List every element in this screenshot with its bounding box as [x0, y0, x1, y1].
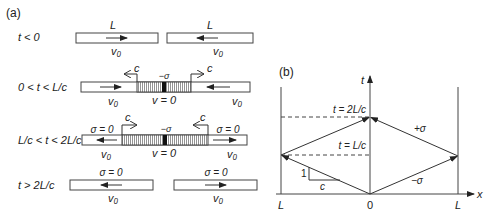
length-label: L: [207, 19, 213, 31]
stress-label: σ = 0: [100, 167, 123, 178]
row-compression-phase: 0 < t < L/c c c −σ v₀ v = 0 v₀: [18, 62, 250, 107]
wave-speed-label: c: [125, 111, 131, 123]
velocity-label: v₀: [213, 192, 224, 204]
stress-label: σ = 0: [91, 124, 114, 135]
wavefront-left-arrow-icon: [193, 125, 208, 135]
x-tick-origin: 0: [367, 199, 373, 211]
wave-speed-label: c: [200, 111, 206, 123]
velocity-label: v₀: [101, 148, 112, 160]
velocity-label: v₀: [213, 45, 224, 57]
panel-a: (a) t < 0 L L v₀ v₀ 0 < t < L/c c c −σ: [6, 6, 257, 204]
row-unloading-phase: L/c < t < 2L/c c c σ = 0 −σ σ = 0 v₀ v =…: [18, 111, 247, 160]
t-2Lc-label: t = 2L/c: [333, 104, 366, 115]
length-label: L: [110, 19, 116, 31]
contact-interface: [163, 135, 167, 145]
row-condition: t < 0: [18, 31, 41, 43]
wave-speed-label: c: [207, 62, 213, 74]
x-axis-label: x: [476, 188, 483, 200]
wavefront-right-arrow-icon: [191, 74, 204, 82]
stress-label: σ = 0: [205, 167, 228, 178]
slope-run-label: c: [320, 181, 325, 192]
row-condition: 0 < t < L/c: [18, 81, 67, 93]
row-before-impact: t < 0 L L v₀ v₀: [18, 19, 253, 57]
impact-wave-diagram: (a) t < 0 L L v₀ v₀ 0 < t < L/c c c −σ: [0, 0, 495, 217]
panel-a-label: (a): [6, 6, 21, 20]
x-tick-right-L: L: [455, 199, 461, 211]
plus-sigma-label: +σ: [414, 123, 427, 134]
velocity-label: v₀: [108, 95, 119, 107]
wave-ray-left-outgoing: [282, 156, 370, 195]
velocity-label: v = 0: [152, 147, 177, 159]
velocity-label: v₀: [232, 95, 243, 107]
contact-interface: [162, 82, 166, 92]
minus-sigma-label: −σ: [411, 175, 424, 186]
velocity-label: v₀: [227, 148, 238, 160]
row-condition: L/c < t < 2L/c: [18, 134, 82, 146]
stress-label: σ = 0: [217, 124, 240, 135]
velocity-label: v₀: [108, 192, 119, 204]
x-tick-left-L: L: [278, 199, 284, 211]
t-Lc-label: t = L/c: [338, 140, 366, 151]
slope-rise-label: 1: [301, 168, 307, 179]
wavefront-right-arrow-icon: [122, 125, 137, 135]
wavefront-left-arrow-icon: [124, 74, 137, 82]
velocity-label: v₀: [111, 45, 122, 57]
wave-speed-label: c: [134, 62, 140, 74]
row-after-separation: t > 2L/c σ = 0 σ = 0 v₀ v₀: [18, 167, 257, 204]
row-condition: t > 2L/c: [18, 179, 55, 191]
stress-label: −σ: [159, 71, 170, 81]
t-axis-label: t: [361, 74, 365, 86]
stress-label: −σ: [161, 124, 172, 134]
velocity-label: v = 0: [152, 94, 177, 106]
panel-b-xt-diagram: (b) x t L 0 L t = 2L/c t = L/c 1 c +σ −σ: [276, 65, 483, 211]
panel-b-label: (b): [279, 65, 294, 79]
